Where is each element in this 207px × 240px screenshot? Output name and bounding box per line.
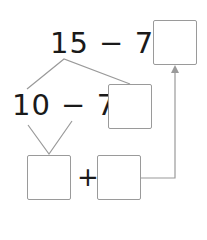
bottom-left-box[interactable] bbox=[27, 155, 71, 200]
bottom-right-box[interactable] bbox=[97, 155, 141, 200]
split-line-bottom bbox=[28, 121, 72, 154]
result-box[interactable] bbox=[153, 20, 197, 65]
arrow-head-icon bbox=[171, 65, 179, 73]
middle-box[interactable] bbox=[108, 84, 152, 129]
